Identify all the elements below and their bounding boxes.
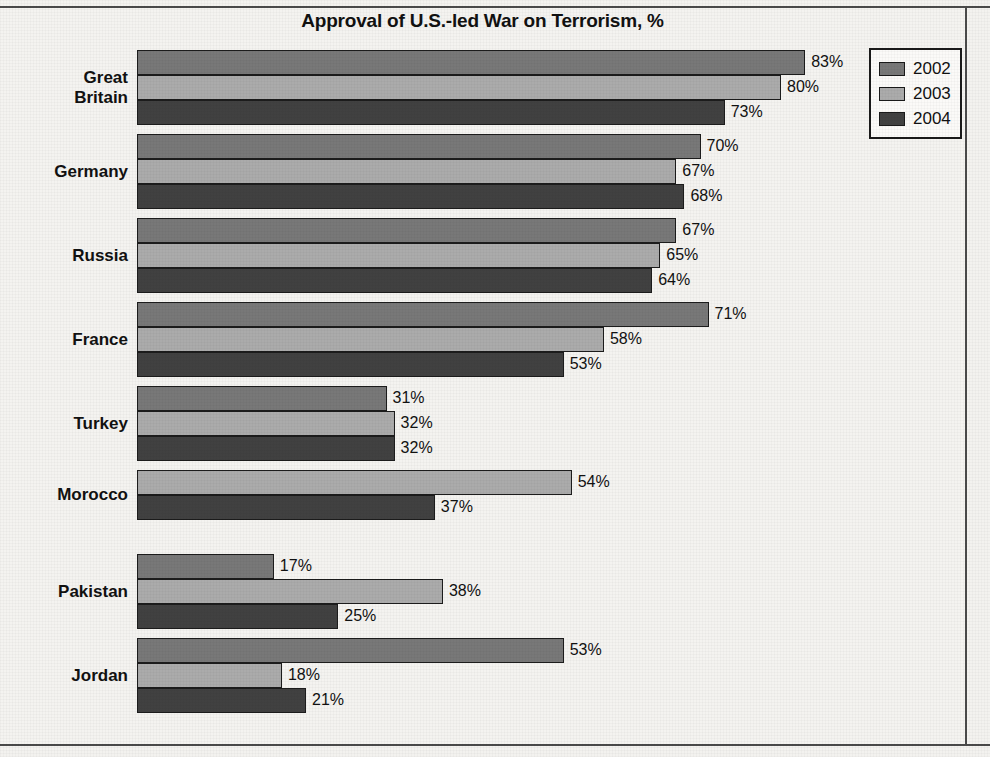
legend-label-2002: 2002: [913, 59, 951, 79]
bar-row: 67%: [137, 159, 746, 184]
category-label-great-britain: Great Britain: [0, 68, 128, 108]
chart-legend: 200220032004: [869, 48, 962, 139]
category-label-turkey: Turkey: [0, 414, 128, 434]
bar-value-great-britain-2004: 73%: [731, 103, 763, 121]
bar-great-britain-2004[interactable]: [137, 100, 725, 125]
bar-germany-2004[interactable]: [137, 184, 684, 209]
bar-row: 37%: [137, 495, 505, 520]
bar-group-germany: Germany70%67%68%: [0, 134, 965, 209]
bar-group-jordan: Jordan53%18%21%: [0, 638, 965, 713]
bar-pakistan-2002[interactable]: [137, 554, 274, 579]
bar-row: 53%: [137, 638, 634, 663]
bar-group-morocco: Morocco54%37%: [0, 470, 965, 520]
bar-jordan-2004[interactable]: [137, 688, 306, 713]
legend-swatch-2002: [879, 62, 905, 76]
bar-value-morocco-2004: 37%: [441, 498, 473, 516]
bar-great-britain-2003[interactable]: [137, 75, 781, 100]
bar-jordan-2002[interactable]: [137, 638, 564, 663]
category-label-germany: Germany: [0, 162, 128, 182]
bar-value-russia-2002: 67%: [682, 221, 714, 239]
bar-row: 64%: [137, 268, 722, 293]
bar-value-pakistan-2002: 17%: [280, 557, 312, 575]
bar-turkey-2003[interactable]: [137, 411, 395, 436]
bar-value-great-britain-2002: 83%: [811, 53, 843, 71]
bar-row: 54%: [137, 470, 642, 495]
bar-great-britain-2002[interactable]: [137, 50, 805, 75]
bar-jordan-2003[interactable]: [137, 663, 282, 688]
bar-value-pakistan-2003: 38%: [449, 582, 481, 600]
bar-value-france-2003: 58%: [610, 330, 642, 348]
frame-bottom-rule: [0, 744, 990, 746]
bar-row: 65%: [137, 243, 730, 268]
bar-row: 58%: [137, 327, 674, 352]
bar-turkey-2002[interactable]: [137, 386, 387, 411]
bar-row: 18%: [137, 663, 352, 688]
bar-russia-2004[interactable]: [137, 268, 652, 293]
category-label-france: France: [0, 330, 128, 350]
legend-item-2004[interactable]: 2004: [879, 106, 954, 131]
plot-area: Great Britain83%80%73%Germany70%67%68%Ru…: [0, 0, 965, 736]
bar-pakistan-2004[interactable]: [137, 604, 338, 629]
category-label-pakistan: Pakistan: [0, 582, 128, 602]
legend-swatch-2004: [879, 112, 905, 126]
category-label-jordan: Jordan: [0, 666, 128, 686]
bar-value-pakistan-2004: 25%: [344, 607, 376, 625]
chart-page: Approval of U.S.-led War on Terrorism, %…: [0, 0, 990, 757]
bar-row: 73%: [137, 100, 795, 125]
bar-row: 21%: [137, 688, 376, 713]
bar-value-jordan-2004: 21%: [312, 691, 344, 709]
bar-group-pakistan: Pakistan17%38%25%: [0, 554, 965, 629]
bar-value-turkey-2002: 31%: [393, 389, 425, 407]
legend-item-2003[interactable]: 2003: [879, 81, 954, 106]
bar-value-great-britain-2003: 80%: [787, 78, 819, 96]
bar-group-france: France71%58%53%: [0, 302, 965, 377]
bar-value-france-2002: 71%: [715, 305, 747, 323]
bar-value-turkey-2003: 32%: [401, 414, 433, 432]
bar-row: 17%: [137, 554, 344, 579]
bar-france-2003[interactable]: [137, 327, 604, 352]
legend-label-2003: 2003: [913, 84, 951, 104]
bar-value-russia-2004: 64%: [658, 271, 690, 289]
bar-group-turkey: Turkey31%32%32%: [0, 386, 965, 461]
bar-france-2004[interactable]: [137, 352, 564, 377]
bar-row: 83%: [137, 50, 875, 75]
bar-row: 32%: [137, 436, 465, 461]
bar-value-russia-2003: 65%: [666, 246, 698, 264]
legend-swatch-2003: [879, 87, 905, 101]
bar-germany-2003[interactable]: [137, 159, 676, 184]
bar-morocco-2003[interactable]: [137, 470, 572, 495]
bar-pakistan-2003[interactable]: [137, 579, 443, 604]
bar-value-morocco-2003: 54%: [578, 473, 610, 491]
bar-row: 32%: [137, 411, 465, 436]
bar-group-great-britain: Great Britain83%80%73%: [0, 50, 965, 125]
bar-row: 70%: [137, 134, 771, 159]
legend-label-2004: 2004: [913, 109, 951, 129]
bar-value-germany-2004: 68%: [690, 187, 722, 205]
bar-row: 71%: [137, 302, 779, 327]
bar-value-jordan-2003: 18%: [288, 666, 320, 684]
bar-row: 53%: [137, 352, 634, 377]
legend-item-2002[interactable]: 2002: [879, 56, 954, 81]
bar-row: 80%: [137, 75, 851, 100]
category-label-russia: Russia: [0, 246, 128, 266]
bar-value-turkey-2004: 32%: [401, 439, 433, 457]
bar-value-germany-2002: 70%: [707, 137, 739, 155]
bar-russia-2002[interactable]: [137, 218, 676, 243]
bar-value-jordan-2002: 53%: [570, 641, 602, 659]
bar-value-france-2004: 53%: [570, 355, 602, 373]
bar-russia-2003[interactable]: [137, 243, 660, 268]
bar-turkey-2004[interactable]: [137, 436, 395, 461]
bar-row: 31%: [137, 386, 457, 411]
bar-group-russia: Russia67%65%64%: [0, 218, 965, 293]
frame-right-rule: [965, 6, 967, 746]
bar-row: 68%: [137, 184, 754, 209]
bar-row: 38%: [137, 579, 513, 604]
bar-row: 25%: [137, 604, 408, 629]
bar-france-2002[interactable]: [137, 302, 709, 327]
bar-germany-2002[interactable]: [137, 134, 701, 159]
bar-row: 67%: [137, 218, 746, 243]
bar-morocco-2004[interactable]: [137, 495, 435, 520]
bar-value-germany-2003: 67%: [682, 162, 714, 180]
category-label-morocco: Morocco: [0, 485, 128, 505]
